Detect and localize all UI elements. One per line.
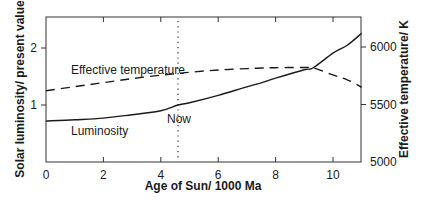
axis-ticks <box>41 17 366 162</box>
y-tick-label: 1 <box>30 98 37 112</box>
y2-axis-title: Effective temperature/ K <box>397 20 411 158</box>
plot-frame <box>46 17 361 162</box>
y-tick-label: 2 <box>30 41 37 55</box>
x-axis-title: Age of Sun/ 1000 Ma <box>145 179 262 193</box>
temp-curve-label: Effective temperature <box>71 63 185 77</box>
tick-labels: 024681012500055006000 <box>30 40 397 182</box>
y-axis-title: Solar luminosity/ present value <box>13 0 27 178</box>
y2-tick-label: 5000 <box>370 155 397 169</box>
x-tick-label: 8 <box>272 168 279 182</box>
x-tick-label: 2 <box>100 168 107 182</box>
y2-tick-label: 5500 <box>370 98 397 112</box>
lum-curve-label: Luminosity <box>71 124 128 138</box>
now-label: Now <box>167 112 191 126</box>
luminosity-curve <box>46 33 362 121</box>
chart: 024681012500055006000 Effective temperat… <box>0 0 422 201</box>
x-tick-label: 0 <box>43 168 50 182</box>
x-tick-label: 10 <box>326 168 340 182</box>
y2-tick-label: 6000 <box>370 40 397 54</box>
